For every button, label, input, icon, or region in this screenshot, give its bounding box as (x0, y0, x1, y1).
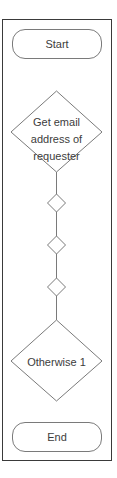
decision-2-diamond[interactable] (48, 236, 66, 254)
decision-3-diamond[interactable] (48, 278, 66, 296)
get-email-label-line-2: address of (11, 131, 102, 148)
otherwise-label: Otherwise 1 (11, 354, 102, 371)
start-label: Start (45, 38, 68, 50)
end-node[interactable]: End (12, 422, 102, 452)
end-label: End (47, 431, 67, 443)
get-email-label-line-1: Get email (11, 114, 102, 131)
flowchart-shapes (0, 0, 117, 478)
get-email-label: Get email address of requester (11, 114, 102, 165)
get-email-label-line-3: requester (11, 148, 102, 165)
decision-1-diamond[interactable] (48, 194, 66, 212)
start-node[interactable]: Start (12, 29, 102, 59)
